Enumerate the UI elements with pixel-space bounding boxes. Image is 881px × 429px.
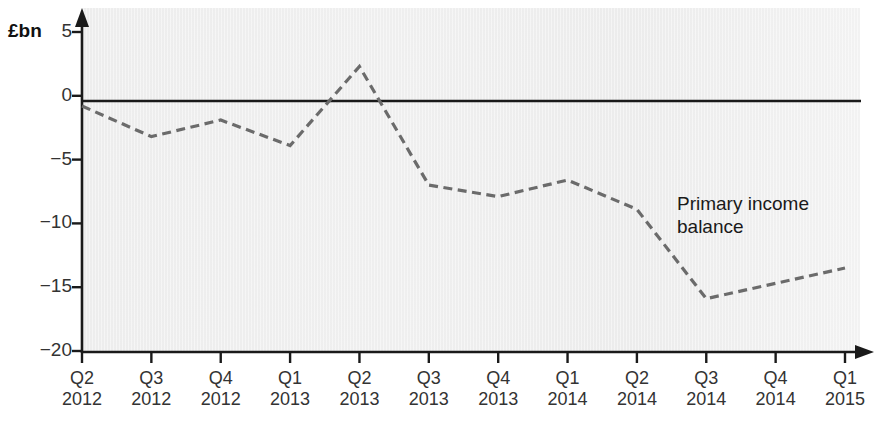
series-annotation-label: Primary income balance [677, 192, 809, 238]
x-axis-arrow-icon [855, 345, 874, 359]
chart-container: £bn 50−5−10−15−20 Q2 2012Q3 2012Q4 2012Q… [0, 0, 881, 429]
y-axis-ticks [72, 32, 82, 351]
x-axis-ticks [82, 352, 845, 363]
y-axis-arrow-icon [75, 8, 89, 27]
